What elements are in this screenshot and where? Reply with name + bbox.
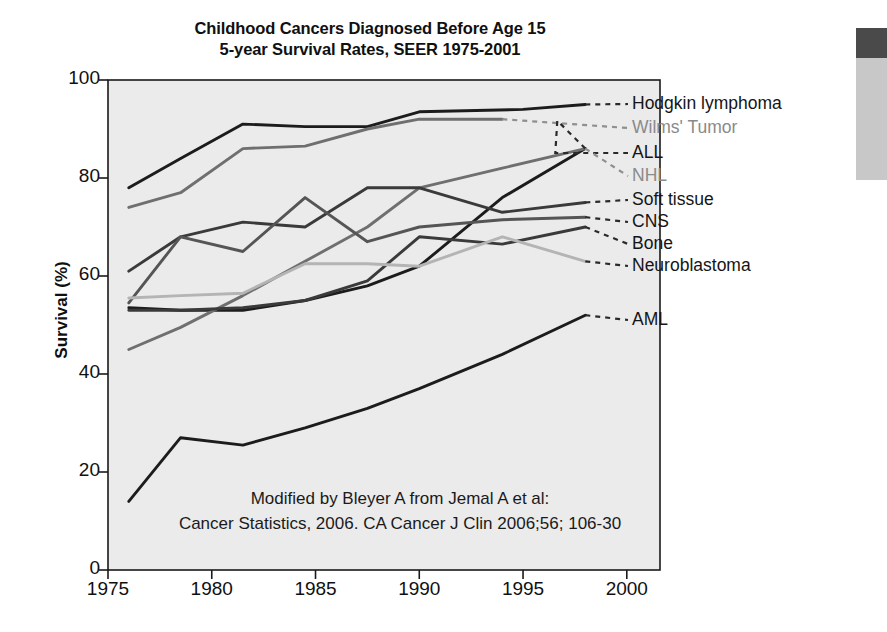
legend-label-hodgkin-lymphoma: Hodgkin lymphoma	[632, 95, 782, 113]
legend-label-bone: Bone	[632, 235, 673, 253]
chart-figure: Survival (%) 020406080100 19751980198519…	[0, 0, 887, 632]
legend-label-soft-tissue: Soft tissue	[632, 191, 714, 209]
legend-label-wilms-tumor: Wilms' Tumor	[632, 119, 737, 137]
legend-labels: Hodgkin lymphomaWilms' TumorALLNHLSoft t…	[0, 0, 887, 632]
legend-label-aml: AML	[632, 311, 668, 329]
legend-label-neuroblastoma: Neuroblastoma	[632, 257, 751, 275]
source-attribution: Modified by Bleyer A from Jemal A et al:…	[150, 486, 650, 536]
source-attribution-line-2: Cancer Statistics, 2006. CA Cancer J Cli…	[150, 511, 650, 536]
legend-label-nhl: NHL	[632, 167, 667, 185]
legend-label-all: ALL	[632, 144, 663, 162]
source-attribution-line-1: Modified by Bleyer A from Jemal A et al:	[150, 486, 650, 511]
legend-label-cns: CNS	[632, 213, 669, 231]
